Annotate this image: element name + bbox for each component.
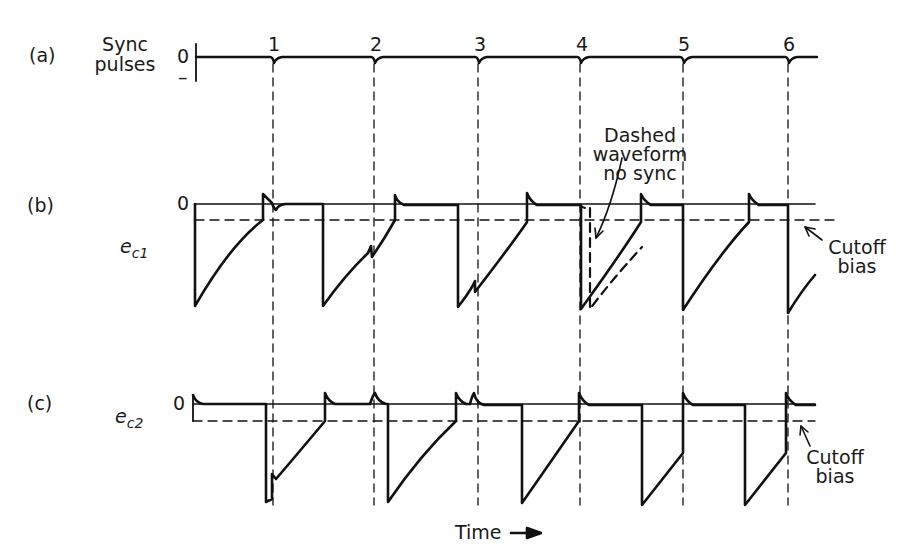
ec2-waveform [193,393,815,505]
cutoff-c-line2: bias [800,466,870,487]
sync-guide-lines [273,64,788,505]
cutoff-arrow-b [805,227,822,240]
panel-a-minus-label: – [178,67,188,88]
ec2-reference-lines [193,396,815,421]
ec1-reference-lines [195,204,838,220]
panel-b-tag: (b) [27,195,54,216]
sync-number-1: 1 [264,34,284,55]
cutoff-b-line2: bias [822,256,892,277]
cutoff-arrow-c [800,426,810,446]
panel-a-tag: (a) [29,45,55,66]
sync-number-2: 2 [366,34,386,55]
ec1-waveform [195,193,815,313]
annotation-dashed-line3: no sync [585,163,695,184]
panel-b-signal-label: ec1 [120,236,148,264]
panel-a-title-line2: pulses [92,54,158,75]
sync-number-6: 6 [779,34,799,55]
time-axis-label: Time [455,522,502,543]
panel-c-signal-label: ec2 [115,406,143,434]
sync-number-4: 4 [572,34,592,55]
panel-a-zero-label: 0 [177,46,189,67]
panel-c-tag: (c) [27,393,52,414]
sync-pulse-trace [196,44,817,81]
sync-number-5: 5 [674,34,694,55]
waveform-diagram [0,0,907,559]
panel-b-zero-label: 0 [177,193,189,214]
panel-c-zero-label: 0 [173,393,185,414]
panel-a-title-line1: Sync [92,34,158,55]
sync-number-3: 3 [470,34,490,55]
time-arrow-icon [511,528,541,538]
